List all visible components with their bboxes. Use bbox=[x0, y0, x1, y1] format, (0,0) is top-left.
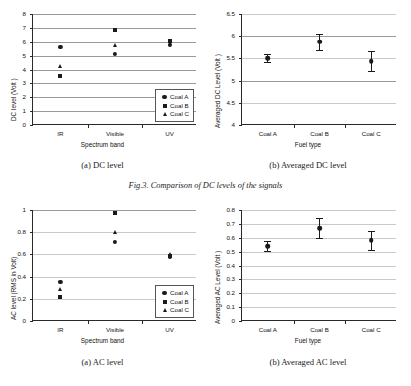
plot-area-averaged-ac-level: 00.10.20.30.40.50.60.70.8Coal ACoal BCoa… bbox=[241, 210, 396, 321]
error-bar-part bbox=[368, 51, 375, 52]
error-bar-part bbox=[264, 241, 271, 242]
x-axis-title-averaged-dc-level: Fuel type bbox=[205, 141, 411, 148]
error-bar-part bbox=[316, 50, 323, 51]
y-tick-mark bbox=[239, 321, 242, 322]
y-tick-mark bbox=[30, 111, 33, 112]
y-tick-mark bbox=[30, 232, 33, 233]
error-bar-part bbox=[368, 231, 375, 232]
y-tick-label: 0.6 bbox=[207, 235, 235, 241]
y-tick-mark bbox=[239, 103, 242, 104]
legend-label: Coal B bbox=[170, 299, 189, 305]
legend-item[interactable]: Coal A bbox=[159, 289, 189, 298]
y-tick-mark bbox=[30, 125, 33, 126]
y-tick-label: 0.8 bbox=[0, 229, 26, 235]
x-axis-title-averaged-ac-level: Fuel type bbox=[205, 337, 411, 344]
y-tick-mark bbox=[239, 293, 242, 294]
data-point bbox=[113, 43, 117, 47]
y-tick-mark bbox=[30, 42, 33, 43]
y-tick-label: 3 bbox=[0, 80, 26, 86]
error-bar bbox=[367, 14, 376, 125]
x-tick-mark bbox=[345, 321, 346, 324]
legend-label: Coal A bbox=[170, 94, 188, 100]
plot-area-ac-level: 00.20.40.60.81IRVisibleUVCoal ACoal BCoa… bbox=[32, 210, 196, 321]
error-bar bbox=[315, 14, 324, 125]
error-bar-part bbox=[317, 226, 322, 231]
y-tick-label: 5 bbox=[207, 77, 235, 83]
data-point bbox=[168, 41, 172, 45]
legend-marker bbox=[159, 104, 170, 108]
legend-marker bbox=[159, 308, 170, 312]
y-tick-label: 4 bbox=[0, 66, 26, 72]
y-tick-label: 0 bbox=[207, 318, 235, 324]
y-tick-label: 0.4 bbox=[207, 262, 235, 268]
x-axis-title-ac-level: Spectrum band bbox=[0, 337, 205, 344]
y-tick-label: 0.2 bbox=[207, 290, 235, 296]
x-tick-mark bbox=[88, 125, 89, 128]
y-tick-mark bbox=[30, 277, 33, 278]
subcaption-a-ac-level: (a) AC level bbox=[0, 357, 205, 367]
data-point bbox=[58, 287, 62, 291]
data-point bbox=[113, 28, 117, 32]
y-tick-mark bbox=[239, 36, 242, 37]
y-tick-mark bbox=[30, 56, 33, 57]
x-tick-label: Visible bbox=[106, 327, 124, 333]
x-tick-label: Visible bbox=[106, 131, 124, 137]
data-point bbox=[168, 252, 172, 256]
legend-item[interactable]: Coal B bbox=[159, 101, 189, 110]
triangle-marker-icon bbox=[163, 112, 167, 116]
x-tick-label: Coal B bbox=[310, 131, 329, 137]
y-tick-label: 2 bbox=[0, 94, 26, 100]
y-tick-mark bbox=[30, 70, 33, 71]
y-tick-mark bbox=[30, 254, 33, 255]
gridline bbox=[33, 83, 196, 84]
legend-item[interactable]: Coal A bbox=[159, 93, 189, 102]
data-point bbox=[113, 240, 117, 244]
y-tick-mark bbox=[239, 252, 242, 253]
y-tick-mark bbox=[239, 14, 242, 15]
y-tick-mark bbox=[239, 266, 242, 267]
y-tick-mark bbox=[30, 321, 33, 322]
legend-label: Coal A bbox=[170, 290, 188, 296]
x-tick-mark bbox=[294, 125, 295, 128]
x-tick-label: UV bbox=[165, 327, 174, 333]
legend-item[interactable]: Coal C bbox=[159, 306, 189, 315]
y-tick-mark bbox=[30, 210, 33, 211]
y-tick-label: 0.6 bbox=[0, 251, 26, 257]
legend-marker bbox=[159, 300, 170, 304]
legend-item[interactable]: Coal C bbox=[159, 110, 189, 119]
gridline bbox=[33, 70, 196, 71]
x-tick-label: IR bbox=[57, 131, 63, 137]
y-tick-label: 1 bbox=[0, 108, 26, 114]
y-tick-label: 4.5 bbox=[207, 100, 235, 106]
y-tick-label: 0.4 bbox=[0, 273, 26, 279]
legend-marker bbox=[159, 291, 170, 295]
chart-legend: Coal ACoal BCoal C bbox=[155, 89, 194, 122]
error-bar-part bbox=[368, 250, 375, 251]
y-tick-label: 0.7 bbox=[207, 221, 235, 227]
error-bar-part bbox=[316, 238, 323, 239]
y-tick-label: 5.5 bbox=[207, 55, 235, 61]
error-bar-part bbox=[266, 56, 271, 61]
error-bar bbox=[367, 210, 376, 321]
gridline bbox=[33, 277, 196, 278]
x-tick-label: IR bbox=[57, 327, 63, 333]
gridline bbox=[33, 14, 196, 15]
x-tick-label: Coal A bbox=[259, 131, 277, 137]
y-tick-label: 0.8 bbox=[207, 207, 235, 213]
y-axis-title-ac-level: AC level (RMS in Volt) bbox=[10, 257, 17, 320]
y-tick-label: 0 bbox=[0, 318, 26, 324]
error-bar bbox=[263, 210, 272, 321]
x-tick-label: Coal C bbox=[362, 131, 381, 137]
legend-label: Coal C bbox=[170, 111, 189, 117]
plot-area-dc-level: 012345678IRVisibleUVCoal ACoal BCoal C bbox=[32, 14, 196, 125]
y-tick-label: 6 bbox=[0, 39, 26, 45]
x-tick-mark bbox=[142, 321, 143, 324]
figure-page: DC level (Volt ) 012345678IRVisibleUVCoa… bbox=[0, 0, 411, 386]
x-tick-mark bbox=[294, 321, 295, 324]
legend-item[interactable]: Coal B bbox=[159, 297, 189, 306]
y-tick-mark bbox=[239, 210, 242, 211]
chart-averaged-dc-level: Averaged DC Level (Volt ) 44.555.566.5Co… bbox=[205, 6, 411, 158]
y-tick-mark bbox=[239, 238, 242, 239]
data-point bbox=[113, 211, 117, 215]
subcaption-b-averaged-dc-level: (b) Averaged DC level bbox=[205, 160, 411, 170]
